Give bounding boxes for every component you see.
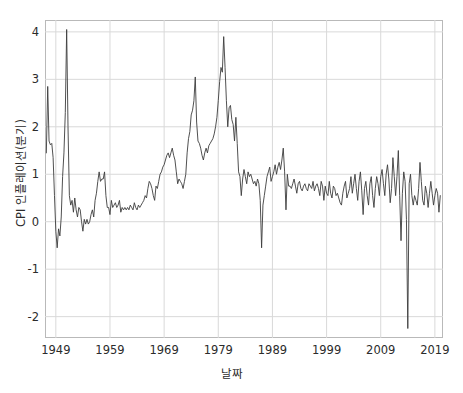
y-tick-label-4: 2	[32, 120, 39, 134]
x-tick-label-1: 1959	[95, 343, 124, 357]
series-layer	[45, 20, 443, 338]
x-tick-label-3: 1979	[204, 343, 233, 357]
y-tick-label-5: 3	[32, 72, 39, 86]
x-tick-label-0: 1949	[41, 343, 70, 357]
series-line-0	[46, 29, 440, 328]
y-tick-label-0: -2	[28, 310, 39, 324]
x-tick-label-5: 1999	[312, 343, 341, 357]
x-axis-tick-labels: 19491959196919791989199920092019	[45, 343, 443, 359]
chart-figure: CPI 인플레이션(분기) -2-101234 1949195919691979…	[0, 0, 463, 393]
y-axis-tick-labels: -2-101234	[0, 20, 39, 338]
y-tick-label-6: 4	[32, 25, 39, 39]
plot-area	[45, 20, 443, 338]
x-tick-label-4: 1989	[258, 343, 287, 357]
y-tick-label-3: 1	[32, 167, 39, 181]
x-axis-label: 날짜	[0, 365, 463, 381]
y-tick-label-1: -1	[28, 262, 39, 276]
x-tick-label-6: 2009	[366, 343, 395, 357]
y-tick-label-2: 0	[32, 215, 39, 229]
x-tick-label-2: 1969	[149, 343, 178, 357]
x-tick-label-7: 2019	[420, 343, 449, 357]
